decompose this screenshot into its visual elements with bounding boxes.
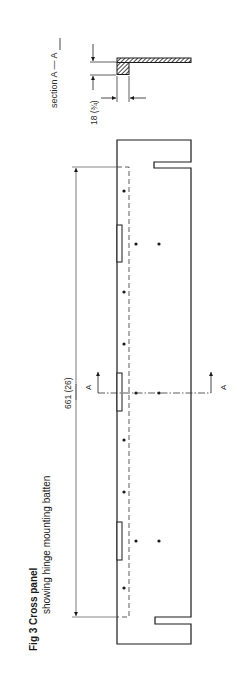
section-label: section A — A xyxy=(49,52,59,108)
screw-hole xyxy=(157,242,160,245)
panel-section xyxy=(117,58,191,63)
hinge-recess-2 xyxy=(117,373,122,411)
length-dimension-label: 661 (26) xyxy=(63,377,73,409)
thickness-dimension-label: 18 (¾) xyxy=(89,100,99,125)
section-view: section A — A 18 (¾) xyxy=(49,38,191,125)
hinge-recess-1 xyxy=(117,225,122,262)
figure-caption: Fig 3 Cross panel showing hinge mounting… xyxy=(28,476,52,651)
screw-hole xyxy=(122,342,125,345)
screw-hole xyxy=(122,290,125,293)
figure-title: Fig 3 Cross panel xyxy=(28,567,39,651)
hinge-recess-3 xyxy=(117,522,122,560)
cross-panel-drawing: section A — A 18 (¾) xyxy=(0,0,237,690)
main-panel-view: A A 661 (26) xyxy=(63,140,228,644)
batten-section xyxy=(117,63,129,75)
panel-outline xyxy=(117,140,191,644)
panel-screw-holes xyxy=(134,242,160,542)
batten-screw-holes xyxy=(122,189,125,589)
screw-hole xyxy=(122,438,125,441)
section-marker-left: A xyxy=(84,384,93,390)
screw-hole xyxy=(122,586,125,589)
screw-hole xyxy=(122,490,125,493)
figure-subtitle: showing hinge mounting batten xyxy=(41,476,52,614)
screw-hole xyxy=(122,189,125,192)
section-marker-right: A xyxy=(219,384,228,390)
screw-hole xyxy=(134,539,137,542)
screw-hole xyxy=(157,539,160,542)
screw-hole xyxy=(134,242,137,245)
